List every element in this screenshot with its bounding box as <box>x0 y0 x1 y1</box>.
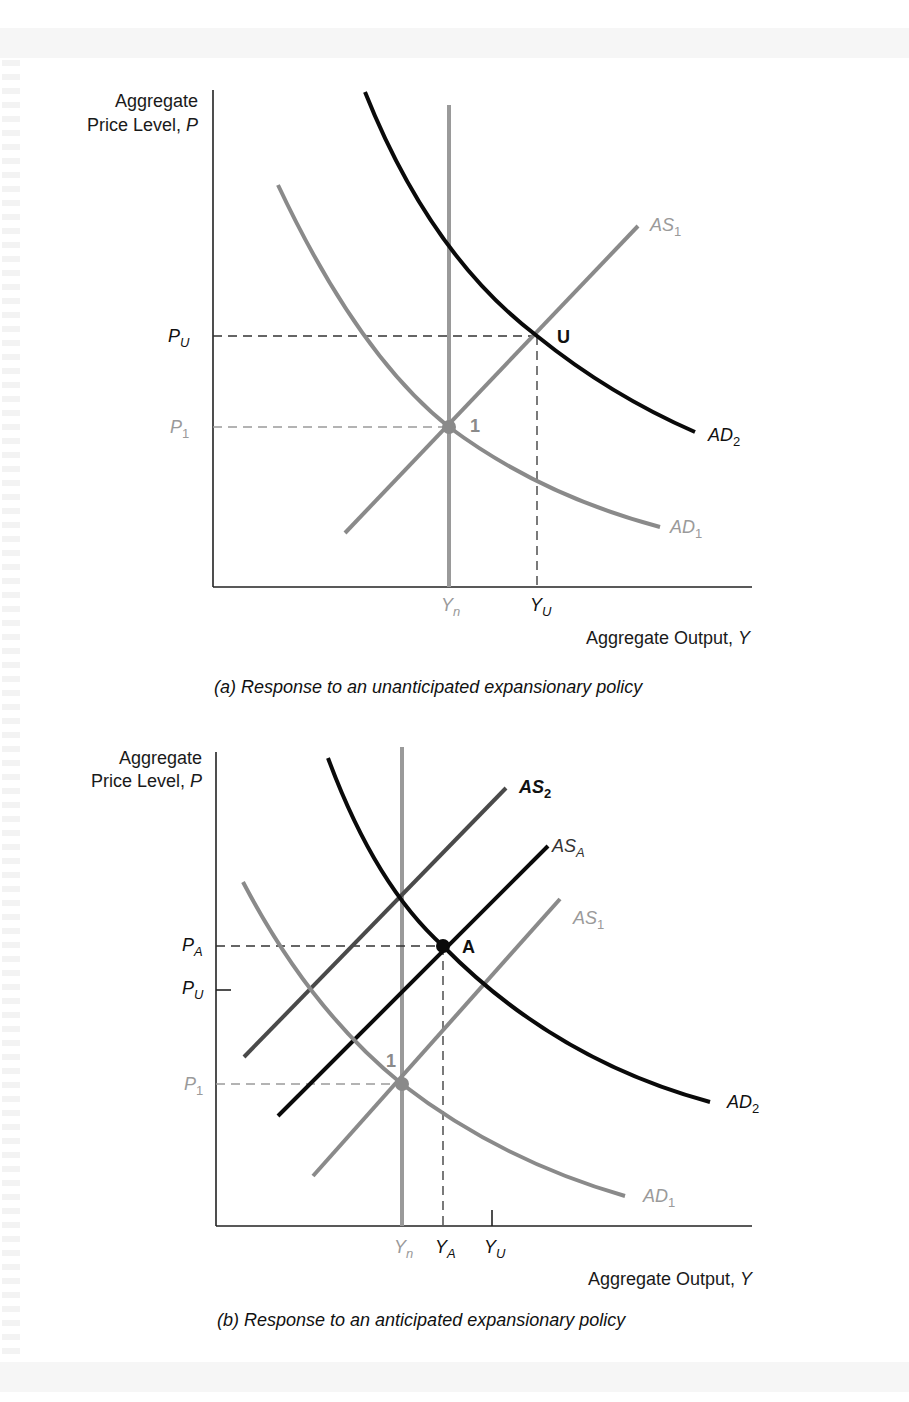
y-tick-pu: PU <box>168 326 190 350</box>
ad2-curve <box>365 92 695 432</box>
point-a-label: A <box>462 937 475 957</box>
y-axis-title-line1: Aggregate <box>115 91 198 111</box>
x-tick-yn: Yn <box>394 1237 413 1261</box>
ad2-label: AD2 <box>726 1092 759 1116</box>
asa-label: ASA <box>551 836 585 860</box>
ad2-label: AD2 <box>707 425 740 449</box>
y-tick-p1: P1 <box>170 417 189 441</box>
point-1-label: 1 <box>386 1051 396 1071</box>
figure-canvas: Aggregate Price Level, P 1 U PU P1 Yn YU… <box>0 0 909 1402</box>
as1-label: AS1 <box>649 215 681 239</box>
equilibrium-point-a <box>436 939 450 953</box>
point-1-label: 1 <box>470 416 480 436</box>
ad1-curve <box>278 185 660 527</box>
x-tick-yn: Yn <box>441 595 460 619</box>
y-axis-title-line1: Aggregate <box>119 748 202 768</box>
y-axis-title-line2: Price Level, P <box>91 771 202 791</box>
as2-label: AS2 <box>518 777 551 801</box>
equilibrium-point-1 <box>395 1077 409 1091</box>
panel-a-caption: (a) Response to an unanticipated expansi… <box>214 677 643 697</box>
y-tick-p1: P1 <box>184 1074 203 1098</box>
x-axis-title: Aggregate Output, Y <box>586 628 752 648</box>
x-axis-title: Aggregate Output, Y <box>588 1269 754 1289</box>
x-tick-ya: YA <box>435 1237 456 1261</box>
point-u-label: U <box>557 327 570 347</box>
ad1-label: AD1 <box>669 517 702 541</box>
equilibrium-point-1 <box>442 420 456 434</box>
panel-b-caption: (b) Response to an anticipated expansion… <box>217 1310 626 1330</box>
y-tick-pu: PU <box>182 978 204 1002</box>
y-axis-title-line2: Price Level, P <box>87 115 198 135</box>
ad1-label: AD1 <box>642 1186 675 1210</box>
x-tick-yu: YU <box>530 595 552 619</box>
y-tick-pa: PA <box>182 935 203 959</box>
as1-label: AS1 <box>572 908 604 932</box>
panel-a: Aggregate Price Level, P 1 U PU P1 Yn YU… <box>87 90 752 697</box>
x-tick-yu: YU <box>484 1237 506 1261</box>
panel-b: Aggregate Price Level, P A 1 PA PU P1 <box>91 747 759 1330</box>
